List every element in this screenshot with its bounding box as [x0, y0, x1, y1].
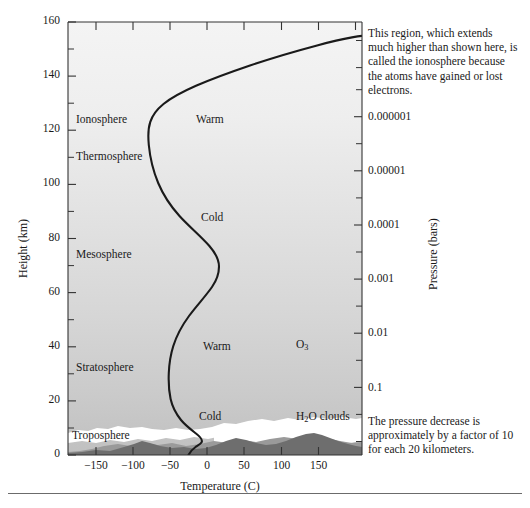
- height-tick-label-0: 0: [18, 447, 60, 459]
- zone-label-warm-lower: Warm: [203, 340, 231, 352]
- annotation-pressure: The pressure decrease is approximately b…: [368, 414, 520, 457]
- layer-label-ionosphere: Ionosphere: [76, 113, 127, 125]
- temperature-tick-label-150: 150: [293, 459, 344, 471]
- layer-label-thermosphere: Thermosphere: [76, 150, 142, 162]
- annotation-ionosphere: This region, which extends much higher t…: [368, 26, 520, 97]
- atmosphere-structure-figure: 160 140 120 100 80 60 40 20 0 Height (km…: [0, 0, 530, 508]
- height-tick-label-160: 160: [18, 14, 60, 26]
- plot-background: [68, 22, 362, 455]
- pressure-tick-label-1e-1: 0.1: [368, 381, 382, 393]
- height-tick-label-120: 120: [18, 122, 60, 134]
- zone-label-cold-lower: Cold: [199, 410, 221, 422]
- layer-label-mesosphere: Mesosphere: [76, 248, 132, 260]
- height-tick-label-40: 40: [18, 339, 60, 351]
- layer-label-troposphere: Troposphere: [72, 429, 130, 441]
- temperature-axis-title: Temperature (C): [170, 479, 270, 494]
- height-axis-title: Height (km): [16, 219, 31, 278]
- pressure-tick-label-1e-4: 0.0001: [368, 218, 400, 230]
- pressure-tick-label-1e-3: 0.001: [368, 272, 394, 284]
- species-label-ozone: O3: [296, 338, 308, 352]
- pressure-tick-label-1e-5: 0.00001: [368, 164, 405, 176]
- height-tick-label-140: 140: [18, 68, 60, 80]
- water-clouds-text: O clouds: [308, 410, 349, 422]
- layer-label-stratosphere: Stratosphere: [76, 361, 133, 373]
- height-tick-label-20: 20: [18, 393, 60, 405]
- pressure-tick-label-1e-6: 0.000001: [368, 110, 411, 122]
- pressure-axis-title: Pressure (bars): [426, 218, 441, 290]
- zone-label-warm-upper: Warm: [196, 113, 224, 125]
- height-tick-label-60: 60: [18, 285, 60, 297]
- height-tick-label-100: 100: [18, 176, 60, 188]
- bottom-divider: [8, 493, 522, 494]
- zone-label-cold-upper: Cold: [201, 211, 223, 223]
- ozone-subscript: 3: [304, 343, 308, 352]
- species-label-water-clouds: H2O clouds: [296, 410, 350, 424]
- pressure-tick-label-1e-2: 0.01: [368, 326, 388, 338]
